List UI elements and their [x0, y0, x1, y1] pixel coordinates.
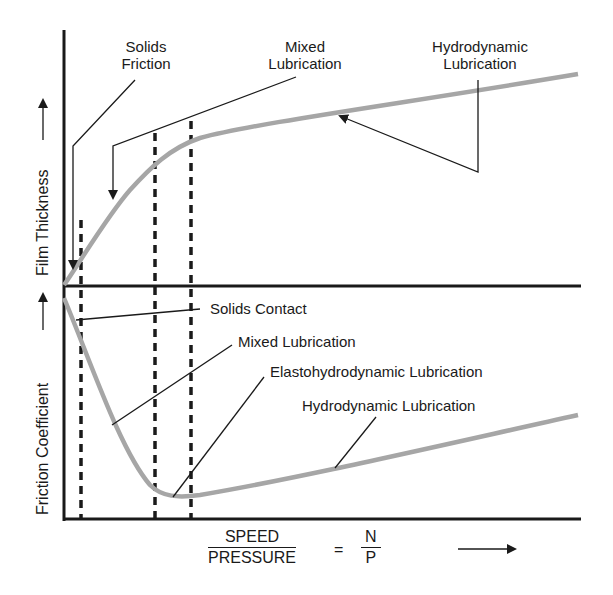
x-label-denominator: PRESSURE [208, 548, 296, 567]
label-line: Mixed [255, 38, 355, 55]
x-label-equals: = [334, 541, 343, 558]
stribeck-diagram: Solids Friction Mixed Lubrication Hydrod… [0, 0, 613, 595]
label-line: Hydrodynamic [415, 38, 545, 55]
x-label-p: P [361, 548, 381, 567]
x-label-n: N [361, 528, 381, 548]
leader-solids-contact [76, 309, 200, 320]
label-line: Solids [112, 38, 180, 55]
x-label-n-over-p: N P [361, 528, 381, 567]
leader-elastohydrodynamic [173, 377, 264, 497]
label-solids-friction: Solids Friction [112, 38, 180, 72]
label-hydrodynamic-bottom: Hydrodynamic Lubrication [302, 397, 475, 414]
y-label-film-thickness: Film Thickness [34, 170, 52, 276]
leader-mixed-lubrication-bottom [112, 345, 232, 425]
diagram-canvas [0, 0, 613, 595]
x-label-numerator: SPEED [208, 528, 296, 548]
label-hydrodynamic-lubrication-top: Hydrodynamic Lubrication [415, 38, 545, 72]
label-elastohydrodynamic: Elastohydrodynamic Lubrication [270, 363, 483, 380]
label-solids-contact: Solids Contact [210, 300, 307, 317]
label-mixed-lubrication-top: Mixed Lubrication [255, 38, 355, 72]
film-thickness-curve [64, 74, 578, 285]
y-label-friction-coefficient: Friction Coefficient [34, 383, 52, 515]
label-line: Lubrication [255, 55, 355, 72]
x-label-speed-over-pressure: SPEED PRESSURE [208, 528, 296, 567]
label-line: Lubrication [415, 55, 545, 72]
label-line: Friction [112, 55, 180, 72]
label-mixed-lubrication-bottom: Mixed Lubrication [238, 333, 356, 350]
